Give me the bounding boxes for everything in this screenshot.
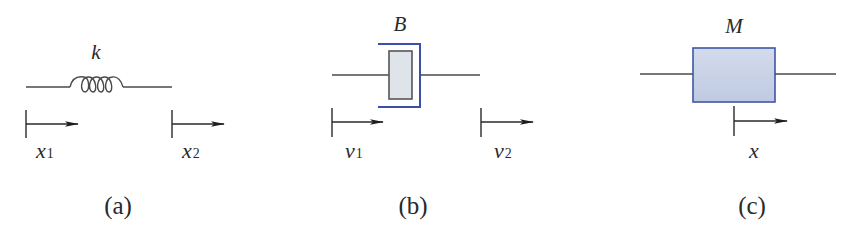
arrow-var-x: x <box>748 138 759 163</box>
caption-a: (a) <box>104 192 132 220</box>
arrow-sub-v1: 1 <box>356 146 363 161</box>
svg-text:x2: x2 <box>181 138 200 163</box>
panel-b-damper: B v1 v2 (b) <box>332 12 533 220</box>
arrow-var-v2: v <box>494 138 504 163</box>
arrow-var-x2: x <box>181 138 192 163</box>
velocity-arrow-v2: v2 <box>481 108 533 163</box>
arrow-var-v1: v <box>345 138 355 163</box>
mass-label: M <box>724 14 744 38</box>
caption-b: (b) <box>398 192 427 220</box>
mass-block-icon <box>640 48 836 102</box>
displacement-arrow-x: x <box>734 106 787 163</box>
mechanical-elements-diagram: k x1 x2 (a) B <box>0 0 856 242</box>
arrow-sub-v2: 2 <box>505 146 512 161</box>
arrow-sub-x2: 2 <box>193 146 200 161</box>
svg-text:v1: v1 <box>345 138 363 163</box>
damper-icon <box>332 44 480 107</box>
spring-icon <box>26 77 172 92</box>
caption-c: (c) <box>738 192 766 220</box>
velocity-arrow-v1: v1 <box>332 108 383 163</box>
displacement-arrow-x1: x1 <box>26 110 78 163</box>
arrow-sub-x1: 1 <box>47 146 54 161</box>
damping-coefficient-label: B <box>394 12 407 36</box>
spring-constant-label: k <box>91 40 101 64</box>
svg-text:v2: v2 <box>494 138 512 163</box>
arrow-var-x1: x <box>35 138 46 163</box>
panel-c-mass: M x (c) <box>640 14 836 220</box>
displacement-arrow-x2: x2 <box>172 110 224 163</box>
svg-text:x1: x1 <box>35 138 54 163</box>
panel-a-spring: k x1 x2 (a) <box>26 40 224 220</box>
svg-text:x: x <box>748 138 759 163</box>
